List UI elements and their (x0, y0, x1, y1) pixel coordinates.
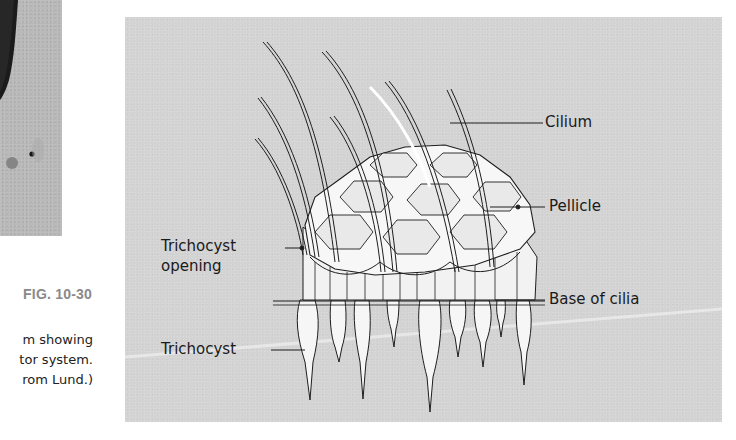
caption-line-3: rom Lund.) (0, 372, 93, 387)
label-trichocyst-opening-line1: Trichocyst (161, 236, 236, 256)
caption-line-1: m showing (0, 332, 93, 347)
label-base-of-cilia: Base of cilia (549, 289, 639, 309)
label-trichocyst: Trichocyst (161, 339, 236, 359)
micrograph-image (0, 0, 62, 236)
micrograph-photo (0, 0, 62, 236)
paramecium-pellicle-diagram: Cilium Pellicle Base of cilia Trichocyst… (125, 17, 722, 422)
figure-number: FIG. 10-30 (0, 286, 92, 302)
pellicle-illustration (125, 17, 722, 422)
label-trichocyst-opening-line2: opening (161, 256, 222, 276)
label-cilium: Cilium (545, 112, 592, 132)
caption-line-2: tor system. (0, 352, 93, 367)
label-pellicle: Pellicle (549, 196, 601, 216)
